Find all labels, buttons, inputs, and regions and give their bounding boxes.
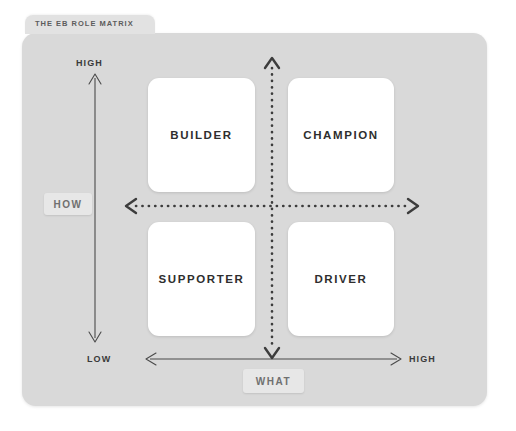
title-tab: THE EB ROLE MATRIX <box>25 15 155 34</box>
quadrant-champion[interactable]: CHAMPION <box>288 78 394 192</box>
quadrant-label: SUPPORTER <box>159 273 245 285</box>
matrix-diagram-root: THE EB ROLE MATRIX BUILDER <box>0 0 516 431</box>
quadrant-label: BUILDER <box>170 129 232 141</box>
horizontal-axis-name: WHAT <box>256 376 292 387</box>
vertical-axis-high-label: HIGH <box>76 58 103 68</box>
quadrant-builder[interactable]: BUILDER <box>148 78 255 192</box>
page-title: THE EB ROLE MATRIX <box>35 19 134 28</box>
vertical-axis-name: HOW <box>53 199 82 210</box>
horizontal-axis-high-label: HIGH <box>409 354 436 364</box>
quadrant-driver[interactable]: DRIVER <box>288 222 394 336</box>
horizontal-axis-name-chip: WHAT <box>243 369 304 393</box>
quadrant-supporter[interactable]: SUPPORTER <box>148 222 255 336</box>
quadrant-label: DRIVER <box>314 273 367 285</box>
horizontal-axis-low-label: LOW <box>87 354 111 364</box>
quadrant-label: CHAMPION <box>303 129 378 141</box>
vertical-axis-name-chip: HOW <box>44 193 92 215</box>
